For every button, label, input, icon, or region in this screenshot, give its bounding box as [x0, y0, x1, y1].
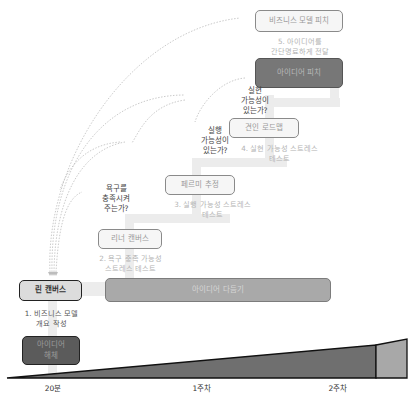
stage-label: 비즈니스 모델 피치	[269, 16, 330, 26]
stage-traction-roadmap[interactable]: 견인 로드맵	[229, 118, 299, 138]
stage-label: 견인 로드맵	[245, 123, 282, 133]
step-4-caption: 4. 실현 가능성 스트레스 테스트	[222, 144, 337, 163]
question-desirability: 욕구를 충족시켜 주는가?	[93, 184, 139, 214]
stage-business-model-pitch[interactable]: 비즈니스 모델 피치	[255, 10, 343, 32]
timeline-wedge-buffer	[376, 339, 407, 378]
question-viability: 실행 가능성이 있는가?	[192, 126, 238, 156]
stage-fermi-estimate[interactable]: 페르미 추정	[165, 175, 235, 195]
stage-label: 아이디어 다듬기	[192, 285, 243, 295]
stage-label: 아이디어 해체	[37, 340, 65, 360]
tick-20min: 20분	[38, 382, 68, 393]
stage-idea-refine[interactable]: 아이디어 다듬기	[105, 278, 331, 302]
step-2-caption: 2. 욕구 충족 가능성 스트레스 테스트	[88, 254, 173, 273]
step-3-caption: 3. 실행 가능성 스트레스 테스트	[155, 200, 270, 219]
stage-lean-canvas[interactable]: 린 캔버스	[19, 280, 82, 301]
tick-week2: 2주차	[318, 382, 358, 393]
step-5-caption: 5. 아이디어를 간단명료하게 전달	[250, 37, 350, 56]
stage-idea-dump[interactable]: 아이디어 해체	[22, 336, 80, 365]
question-text: 실현 가능성이 있는가?	[241, 86, 269, 115]
stage-leaner-canvas[interactable]: 리너 캔버스	[98, 229, 162, 249]
stage-label: 페르미 추정	[181, 180, 218, 190]
stage-label: 아이디어 피치	[277, 68, 321, 78]
stage-idea-pitch[interactable]: 아이디어 피치	[255, 58, 343, 88]
stage-label: 리너 캔버스	[111, 234, 148, 244]
step-1-caption: 1. 비즈니스 모델 개요 작성	[14, 309, 89, 328]
question-feasibility-top: 실현 가능성이 있는가?	[232, 86, 278, 116]
stage-label: 린 캔버스	[35, 285, 66, 295]
tick-week1: 1주차	[182, 382, 222, 393]
